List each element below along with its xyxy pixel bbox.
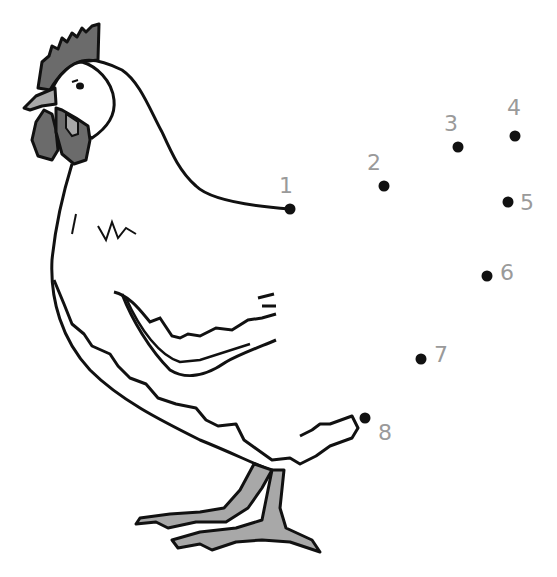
dot-label-2: 2	[367, 150, 381, 175]
eye	[76, 83, 84, 90]
wing-outline	[114, 292, 276, 338]
connect-the-dots-canvas: 1 2 3 4 5 6 7 8	[0, 0, 557, 577]
dot-6[interactable]	[482, 271, 493, 282]
dot-2[interactable]	[379, 181, 390, 192]
dot-4[interactable]	[510, 131, 521, 142]
dot-label-6: 6	[500, 260, 514, 285]
dot-5[interactable]	[503, 197, 514, 208]
dot-label-1: 1	[279, 173, 293, 198]
dot-label-3: 3	[444, 111, 458, 136]
dot-label-4: 4	[507, 95, 521, 120]
feather-mark	[98, 222, 136, 240]
dot-3[interactable]	[453, 142, 464, 153]
dot-label-7: 7	[434, 342, 448, 367]
wattle-left	[32, 110, 58, 160]
beak-shape	[24, 88, 56, 110]
dot-8[interactable]	[360, 413, 371, 424]
dots-group: 1 2 3 4 5 6 7 8	[279, 95, 534, 445]
dot-label-8: 8	[378, 420, 392, 445]
feather-mark	[72, 214, 76, 234]
leg-left	[136, 464, 272, 528]
dot-1[interactable]	[285, 204, 296, 215]
dot-7[interactable]	[416, 354, 427, 365]
dot-label-5: 5	[520, 190, 534, 215]
tail-stub	[258, 294, 276, 306]
